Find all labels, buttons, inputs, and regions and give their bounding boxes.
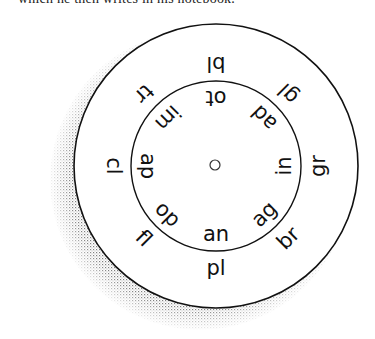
inner-label-an: an <box>203 222 229 246</box>
outer-label-cl: cl <box>102 157 126 174</box>
outer-label-pl: pl <box>206 256 225 280</box>
inner-label-ot: ot <box>205 86 226 110</box>
word-wheel-diagram: blglgrbrplflcltr otadinaganopapim <box>0 0 375 339</box>
outer-label-gr: gr <box>306 155 330 177</box>
hub-icon <box>210 160 220 170</box>
outer-label-bl: bl <box>206 52 225 76</box>
inner-label-ap: ap <box>136 153 160 179</box>
inner-label-in: in <box>272 156 296 175</box>
